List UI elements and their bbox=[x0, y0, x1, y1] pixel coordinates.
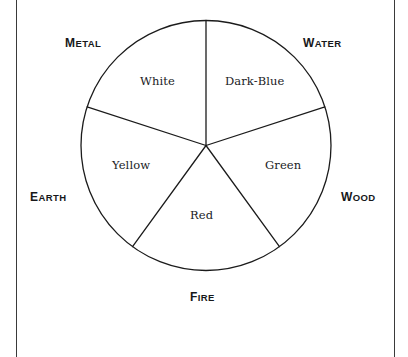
element-label-remainder: ETAL bbox=[75, 38, 101, 49]
element-label-earth: EARTH bbox=[30, 188, 66, 204]
element-label-remainder: OOD bbox=[353, 192, 376, 203]
color-label-yellow: Yellow bbox=[112, 160, 150, 172]
element-label-metal: METAL bbox=[65, 34, 101, 50]
color-label-white: White bbox=[140, 76, 175, 88]
element-label-initial: W bbox=[341, 190, 353, 204]
element-label-wood: WOOD bbox=[341, 188, 376, 204]
element-label-remainder: ARTH bbox=[38, 192, 66, 203]
color-label-red: Red bbox=[190, 210, 213, 222]
element-label-remainder: IRE bbox=[198, 292, 215, 303]
color-label-dark-blue: Dark-Blue bbox=[225, 76, 284, 88]
element-label-initial: F bbox=[190, 290, 198, 304]
element-label-remainder: ATER bbox=[315, 38, 342, 49]
five-elements-figure: WATERWOODFIREEARTHMETAL Dark-BlueGreenRe… bbox=[0, 0, 408, 357]
element-label-initial: M bbox=[65, 36, 75, 50]
element-label-initial: W bbox=[303, 36, 315, 50]
element-label-water: WATER bbox=[303, 34, 342, 50]
color-label-green: Green bbox=[265, 160, 301, 172]
element-label-fire: FIRE bbox=[190, 288, 215, 304]
